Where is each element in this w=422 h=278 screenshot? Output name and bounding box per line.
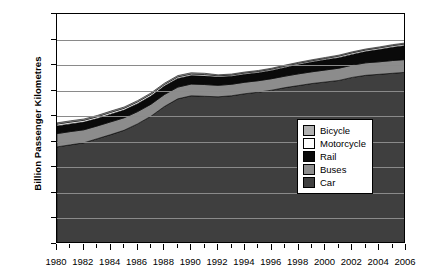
- x-tick-label: 1982: [72, 256, 93, 267]
- legend-label: Motorcycle: [320, 137, 366, 150]
- x-tick-label: 1988: [153, 256, 174, 267]
- x-tick-minor: [150, 244, 151, 248]
- x-tick-major: [298, 244, 299, 250]
- legend: BicycleMotorcycleRailBusesCar: [297, 119, 373, 194]
- x-tick-label: 1984: [99, 256, 120, 267]
- x-tick-major: [271, 244, 272, 250]
- gridline: [57, 40, 404, 41]
- x-tick-major: [405, 244, 406, 250]
- x-tick-minor: [69, 244, 70, 248]
- x-tick-minor: [257, 244, 258, 248]
- x-tick-minor: [365, 244, 366, 248]
- x-tick-minor: [123, 244, 124, 248]
- legend-label: Car: [320, 176, 335, 189]
- stacked-area-chart: Billion Passenger Kilometres 01002003004…: [0, 0, 422, 278]
- legend-swatch-motorcycle: [303, 138, 315, 149]
- x-tick-label: 1996: [260, 256, 281, 267]
- gridline: [57, 218, 404, 219]
- legend-label: Bicycle: [320, 124, 350, 137]
- gridline: [57, 91, 404, 92]
- x-tick-label: 1992: [206, 256, 227, 267]
- x-tick-minor: [177, 244, 178, 248]
- legend-swatch-buses: [303, 164, 315, 175]
- x-tick-minor: [204, 244, 205, 248]
- x-tick-minor: [231, 244, 232, 248]
- x-tick-label: 1998: [287, 256, 308, 267]
- legend-item-buses[interactable]: Buses: [303, 163, 366, 176]
- legend-swatch-rail: [303, 151, 315, 162]
- x-tick-major: [217, 244, 218, 250]
- x-tick-label: 1986: [126, 256, 147, 267]
- legend-label: Buses: [320, 163, 346, 176]
- legend-item-rail[interactable]: Rail: [303, 150, 366, 163]
- x-tick-major: [56, 244, 57, 250]
- x-tick-major: [324, 244, 325, 250]
- x-tick-label: 1990: [180, 256, 201, 267]
- x-tick-minor: [96, 244, 97, 248]
- x-tick-major: [351, 244, 352, 250]
- legend-item-motorcycle[interactable]: Motorcycle: [303, 137, 366, 150]
- x-tick-minor: [392, 244, 393, 248]
- x-tick-major: [378, 244, 379, 250]
- x-tick-major: [244, 244, 245, 250]
- x-tick-label: 2002: [341, 256, 362, 267]
- x-tick-label: 2000: [314, 256, 335, 267]
- x-tick-major: [163, 244, 164, 250]
- legend-item-car[interactable]: Car: [303, 176, 366, 189]
- x-tick-label: 2004: [368, 256, 389, 267]
- gridline: [57, 116, 404, 117]
- x-tick-label: 1980: [45, 256, 66, 267]
- x-tick-minor: [311, 244, 312, 248]
- x-tick-minor: [338, 244, 339, 248]
- legend-swatch-bicycle: [303, 125, 315, 136]
- x-tick-label: 1994: [233, 256, 254, 267]
- legend-item-bicycle[interactable]: Bicycle: [303, 124, 366, 137]
- gridline: [57, 65, 404, 66]
- x-tick-label: 2006: [394, 256, 415, 267]
- x-tick-major: [190, 244, 191, 250]
- x-tick-major: [83, 244, 84, 250]
- x-tick-major: [110, 244, 111, 250]
- legend-swatch-car: [303, 177, 315, 188]
- legend-label: Rail: [320, 150, 336, 163]
- y-axis-title: Billion Passenger Kilometres: [32, 29, 43, 219]
- x-tick-minor: [284, 244, 285, 248]
- x-tick-major: [137, 244, 138, 250]
